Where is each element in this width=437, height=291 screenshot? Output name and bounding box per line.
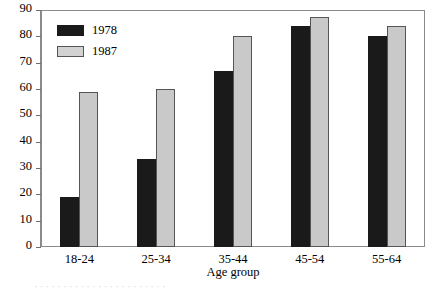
y-axis-tick-label: 50	[20, 107, 33, 119]
y-axis: 0102030405060708090	[0, 10, 41, 247]
bar-55-64-1978	[368, 36, 387, 247]
bar-25-34-1987	[156, 89, 175, 247]
bar-chart-figure: 0102030405060708090 1978 1987 18-2425-34…	[0, 0, 437, 291]
bar-35-44-1978	[214, 71, 233, 247]
bar-55-64-1987	[387, 26, 406, 247]
x-axis-title: Age group	[41, 265, 425, 279]
page-bleed-text: · · · · · · · · · · · · · · · · · · · · …	[34, 282, 414, 291]
legend-label-1978: 1978	[92, 24, 117, 37]
bar-35-44-1987	[233, 36, 252, 247]
bar-group	[291, 10, 329, 247]
y-axis-tick-label: 70	[20, 55, 33, 67]
legend-item: 1987	[57, 43, 149, 60]
y-axis-tick-label: 10	[20, 213, 33, 225]
y-axis-tick-label: 80	[20, 28, 33, 40]
bar-group	[214, 10, 252, 247]
chart-legend: 1978 1987	[57, 22, 149, 64]
legend-item: 1978	[57, 22, 149, 39]
y-axis-tick-label: 30	[20, 160, 33, 172]
bar-45-54-1987	[310, 17, 329, 247]
bar-18-24-1978	[60, 197, 79, 247]
bar-18-24-1987	[79, 92, 98, 247]
legend-label-1987: 1987	[92, 45, 117, 58]
y-axis-tick-label: 60	[20, 81, 33, 93]
y-axis-tick-label: 0	[26, 239, 32, 251]
legend-swatch-1987	[57, 46, 84, 57]
bar-45-54-1978	[291, 26, 310, 247]
legend-swatch-1978	[57, 25, 84, 36]
bar-group	[368, 10, 406, 247]
bar-25-34-1978	[137, 159, 156, 247]
y-axis-tick-label: 40	[20, 134, 33, 146]
y-axis-tick-label: 20	[20, 186, 33, 198]
y-axis-tick-label: 90	[20, 2, 33, 14]
